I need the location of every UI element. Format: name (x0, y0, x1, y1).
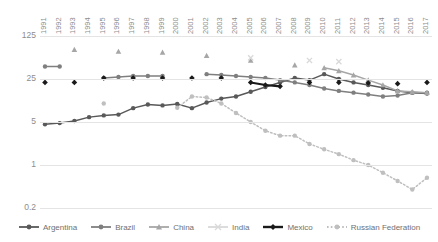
data-point (277, 84, 283, 90)
data-point (322, 147, 326, 151)
x-tick-label: 1991 (40, 17, 48, 34)
x-tick-label: 2007 (275, 17, 283, 34)
x-tick-label: 2000 (172, 17, 180, 34)
data-point (190, 106, 194, 110)
data-point (336, 80, 342, 86)
x-tick-label: 2003 (216, 17, 224, 34)
series-argentina (43, 72, 429, 126)
data-point (410, 187, 414, 191)
data-point (307, 58, 312, 63)
x-axis-labels: 1991199219931994199519961997199819992000… (40, 0, 432, 36)
legend-label: Brazil (115, 223, 135, 232)
chart-container: 12525510.2 19911992199319941995199619971… (0, 0, 438, 242)
legend-item-russian-federation[interactable]: Russian Federation (326, 222, 420, 232)
x-tick-label: 1993 (69, 17, 77, 34)
data-point (131, 106, 135, 110)
data-point (234, 74, 238, 78)
x-tick-label: 2008 (290, 17, 298, 34)
data-point (248, 90, 252, 94)
legend-label: China (173, 223, 194, 232)
legend-label: Russian Federation (351, 223, 420, 232)
data-point (322, 72, 326, 76)
legend-label: Mexico (287, 223, 312, 232)
plot-area (40, 36, 432, 208)
y-gridline (40, 79, 432, 80)
data-point (175, 102, 179, 106)
y-tick-label: 1 (31, 160, 36, 169)
x-tick-label: 2017 (422, 17, 430, 34)
y-tick-label: 25 (27, 74, 36, 83)
x-tick-label: 2014 (378, 17, 386, 34)
data-point (57, 64, 61, 68)
data-point (337, 89, 341, 93)
y-gridline (40, 165, 432, 166)
data-point (366, 92, 370, 96)
data-point (43, 64, 47, 68)
x-tick-label: 1997 (128, 17, 136, 34)
legend-marker-icon (148, 222, 170, 232)
data-point (381, 94, 385, 98)
chart-legend: ArgentinaBrazilChinaIndiaMexicoRussian F… (0, 216, 438, 238)
legend-marker-icon (90, 222, 112, 232)
y-gridline (40, 208, 432, 209)
legend-item-china[interactable]: China (148, 222, 194, 232)
series-russian-federation (102, 94, 430, 191)
data-point (175, 106, 179, 110)
legend-item-india[interactable]: India (207, 222, 249, 232)
data-point (204, 53, 210, 58)
data-point (337, 152, 341, 156)
y-tick-label: 5 (31, 117, 36, 126)
data-point (234, 94, 238, 98)
x-tick-label: 1996 (113, 17, 121, 34)
data-point (395, 93, 399, 97)
data-point (87, 115, 91, 119)
x-tick-label: 2009 (304, 17, 312, 34)
data-point (219, 96, 223, 100)
legend-item-brazil[interactable]: Brazil (90, 222, 135, 232)
legend-marker-icon (262, 222, 284, 232)
y-gridline (40, 36, 432, 37)
data-point (395, 179, 399, 183)
data-point (307, 142, 311, 146)
x-tick-label: 2011 (334, 18, 342, 34)
data-point (248, 80, 254, 86)
x-tick-label: 1992 (55, 17, 63, 34)
x-tick-label: 2004 (231, 17, 239, 34)
data-point (293, 80, 297, 84)
data-point (72, 47, 78, 52)
data-point (336, 59, 341, 64)
y-tick-label: 125 (22, 31, 36, 40)
x-tick-label: 2010 (319, 17, 327, 34)
data-point (190, 94, 194, 98)
data-point (72, 80, 78, 86)
x-tick-label: 1994 (84, 17, 92, 34)
data-point (204, 95, 208, 99)
data-point (278, 133, 282, 137)
data-point (146, 102, 150, 106)
x-tick-label: 2001 (187, 17, 195, 34)
data-point (234, 111, 238, 115)
data-point (425, 176, 429, 180)
data-point (395, 81, 401, 87)
data-point (102, 101, 106, 105)
legend-item-mexico[interactable]: Mexico (262, 222, 312, 232)
legend-marker-icon (326, 222, 348, 232)
x-tick-label: 1998 (143, 17, 151, 34)
data-point (219, 101, 223, 105)
data-point (381, 170, 385, 174)
legend-item-argentina[interactable]: Argentina (18, 222, 77, 232)
x-tick-label: 2005 (246, 17, 254, 34)
x-tick-label: 2013 (363, 17, 371, 34)
x-tick-label: 2006 (260, 17, 268, 34)
data-point (351, 80, 355, 84)
data-point (204, 100, 208, 104)
legend-label: Argentina (43, 223, 77, 232)
y-tick-label: 0.2 (24, 203, 36, 212)
data-point (292, 62, 298, 67)
legend-label: India (232, 223, 249, 232)
y-gridline (40, 122, 432, 123)
data-point (204, 72, 208, 76)
x-tick-label: 1999 (158, 17, 166, 34)
data-point (102, 113, 106, 117)
legend-marker-icon (18, 222, 40, 232)
